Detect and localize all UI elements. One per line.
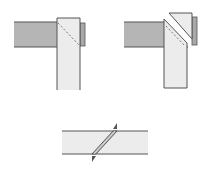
dark-strip-end-tab: [192, 17, 197, 45]
figure-cut: [124, 13, 197, 88]
horizontal-dark-strip: [124, 22, 166, 47]
seam-top-marker-icon: [113, 123, 117, 129]
figure-overlap: [14, 18, 85, 90]
vertical-light-strip: [57, 18, 80, 90]
dark-strip-end-tab: [80, 23, 85, 46]
figure-seam: [62, 123, 148, 162]
seam-bottom-marker-icon: [92, 156, 96, 162]
horizontal-dark-strip: [14, 22, 58, 47]
diagram-canvas: [0, 0, 205, 169]
